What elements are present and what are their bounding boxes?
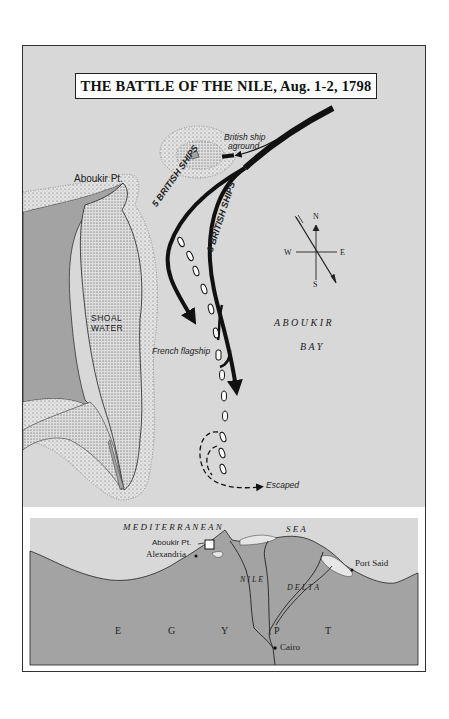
label-aboukir-pt: Aboukir Pt. bbox=[74, 173, 123, 184]
inset-label-port-said: Port Said bbox=[355, 558, 388, 568]
inset-label-cairo: Cairo bbox=[280, 642, 300, 652]
inset-label-mediterranean: M E D I T E R R A N E A N bbox=[123, 522, 222, 532]
cairo-dot bbox=[273, 646, 277, 650]
inset-label-sea: S E A bbox=[286, 524, 306, 534]
label-water: WATER bbox=[91, 323, 123, 333]
alexandria-dot bbox=[195, 555, 198, 558]
compass-n: N bbox=[313, 212, 319, 221]
inset-label-nile: N I L E bbox=[240, 575, 263, 584]
inset-label-egypt-e: E bbox=[115, 625, 121, 636]
compass-e: E bbox=[340, 248, 345, 257]
label-shoal: SHOAL bbox=[91, 313, 122, 323]
label-aboukir-bay-1: A B O U K I R bbox=[274, 317, 332, 328]
label-french-flagship: French flagship bbox=[152, 346, 210, 356]
inset-label-delta: D E L T A bbox=[287, 583, 319, 592]
label-british-aground-2: aground bbox=[228, 141, 259, 151]
map-graphics bbox=[0, 0, 449, 719]
inset-label-egypt-t: T bbox=[325, 625, 331, 636]
inset-aboukir-marker bbox=[205, 540, 214, 549]
compass-s: S bbox=[313, 280, 317, 289]
compass-w: W bbox=[284, 248, 292, 257]
label-aboukir-bay-2: B A Y bbox=[300, 341, 322, 352]
map-title-box: THE BATTLE OF THE NILE, Aug. 1-2, 1798 bbox=[75, 73, 377, 99]
inset-label-egypt-g: G bbox=[168, 625, 175, 636]
inset-label-egypt-p: P bbox=[274, 625, 280, 636]
french-flagship bbox=[216, 350, 221, 360]
map-title: THE BATTLE OF THE NILE, Aug. 1-2, 1798 bbox=[81, 78, 372, 95]
inset-label-aboukir-pt: Aboukir Pt. bbox=[152, 538, 191, 547]
port-said-dot bbox=[351, 569, 354, 572]
inset-label-egypt-y: Y bbox=[221, 625, 228, 636]
label-escaped: Escaped bbox=[266, 480, 299, 490]
inset-label-alexandria: Alexandria bbox=[146, 549, 186, 559]
